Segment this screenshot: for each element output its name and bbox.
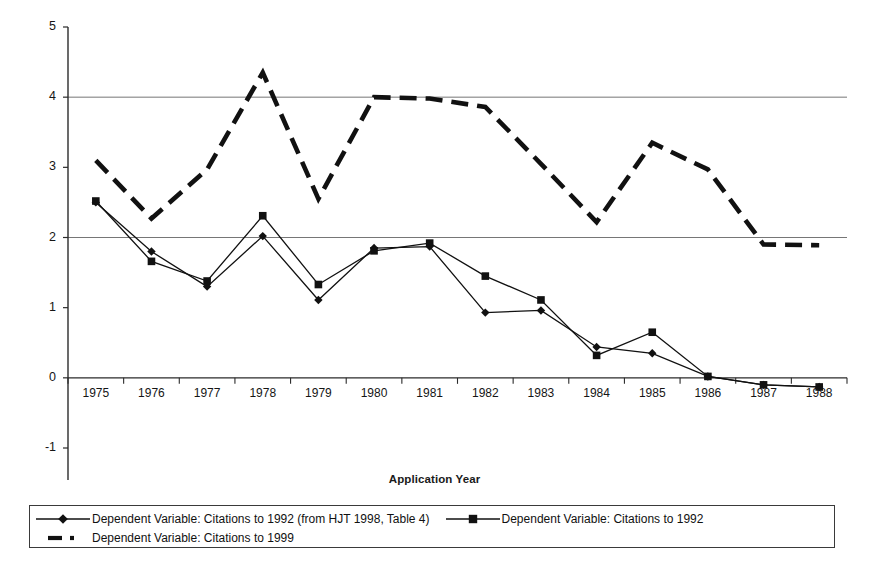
x-tick-label-1977: 1977 [179, 386, 235, 400]
line-dashed-key [34, 529, 92, 547]
marker-square-1982 [482, 272, 490, 280]
y-tick-label-4: 4 [30, 89, 56, 103]
y-tick-label-2: 2 [30, 230, 56, 244]
x-tick-label-1985: 1985 [624, 386, 680, 400]
marker-diamond-1985 [648, 349, 656, 357]
y-tick-label-5: 5 [30, 19, 56, 33]
x-tick-label-1978: 1978 [235, 386, 291, 400]
line-square-key [444, 510, 502, 528]
x-tick-label-1980: 1980 [346, 386, 402, 400]
marker-square-1985 [648, 328, 656, 336]
chart-legend: Dependent Variable: Citations to 1992 (f… [29, 505, 835, 548]
y-tick-label--1: -1 [30, 440, 56, 454]
line-diamond-key [34, 510, 92, 528]
x-tick-label-1983: 1983 [513, 386, 569, 400]
legend-entry-2[interactable]: Dependent Variable: Citations to 1999 [34, 527, 294, 548]
x-tick-label-1982: 1982 [457, 386, 513, 400]
x-tick-label-1975: 1975 [68, 386, 124, 400]
marker-diamond-1983 [537, 306, 545, 314]
legend-entry-1[interactable]: Dependent Variable: Citations to 1992 [444, 508, 704, 529]
x-tick-label-1984: 1984 [569, 386, 625, 400]
y-tick-label-3: 3 [30, 159, 56, 173]
marker-square-1978 [259, 212, 267, 220]
chart-figure: Coefficient on Interaction Term Applicat… [0, 0, 869, 566]
y-tick-label-1: 1 [30, 300, 56, 314]
legend-row-2: Dependent Variable: Citations to 1999 [30, 527, 294, 548]
x-tick-label-1981: 1981 [402, 386, 458, 400]
x-tick-label-1976: 1976 [123, 386, 179, 400]
plot-area [0, 0, 869, 566]
marker-square-1984 [593, 352, 601, 360]
marker-square-1975 [92, 197, 100, 205]
x-tick-label-1986: 1986 [680, 386, 736, 400]
x-tick-label-1979: 1979 [290, 386, 346, 400]
marker-square-1977 [203, 277, 211, 285]
series-line-citations-1992 [96, 201, 819, 387]
series-line-citations-1999 [96, 73, 819, 246]
marker-square-1983 [537, 296, 545, 304]
x-tick-label-1988: 1988 [791, 386, 847, 400]
legend-row-1: Dependent Variable: Citations to 1992 (f… [30, 508, 703, 529]
marker-diamond-1984 [592, 343, 600, 351]
legend-label-2: Dependent Variable: Citations to 1999 [92, 531, 294, 545]
marker-square-1980 [370, 247, 378, 255]
marker-square-1981 [426, 239, 434, 247]
marker-square-1986 [704, 373, 712, 381]
series-line-hjt-1992 [96, 202, 819, 387]
legend-entry-0[interactable]: Dependent Variable: Citations to 1992 (f… [34, 508, 430, 529]
legend-label-1: Dependent Variable: Citations to 1992 [502, 512, 704, 526]
marker-square-1979 [315, 281, 323, 289]
x-tick-label-1987: 1987 [736, 386, 792, 400]
marker-square-1976 [148, 258, 156, 266]
y-tick-label-0: 0 [30, 370, 56, 384]
legend-label-0: Dependent Variable: Citations to 1992 (f… [92, 512, 430, 526]
